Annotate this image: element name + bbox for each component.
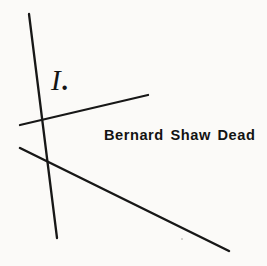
steep-descending-line (29, 14, 57, 238)
figure-canvas-container: I. Bernard Shaw Dead (0, 0, 267, 266)
line-group (20, 14, 229, 251)
line-figure-svg (0, 0, 267, 266)
